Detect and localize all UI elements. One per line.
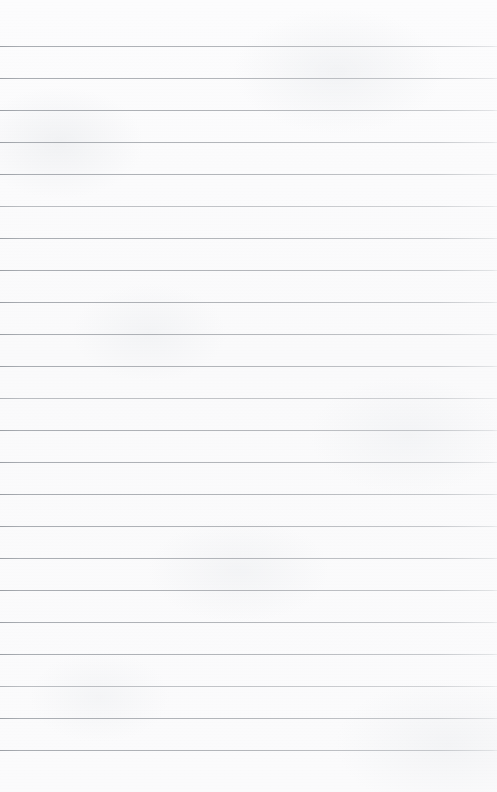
bottom-margin xyxy=(0,750,497,792)
ruled-line xyxy=(0,174,497,175)
ruled-line xyxy=(0,622,497,623)
ruled-line xyxy=(0,686,497,687)
ruled-line xyxy=(0,270,497,271)
ruled-line xyxy=(0,718,497,719)
ruled-line xyxy=(0,238,497,239)
ruled-line xyxy=(0,46,497,47)
ruled-line xyxy=(0,590,497,591)
lined-paper-page xyxy=(0,0,497,792)
ruled-line xyxy=(0,526,497,527)
ruled-line xyxy=(0,142,497,143)
ruled-line xyxy=(0,78,497,79)
ruled-line xyxy=(0,334,497,335)
ruled-line xyxy=(0,206,497,207)
ruled-lines-group xyxy=(0,0,497,792)
ruled-line xyxy=(0,398,497,399)
ruled-line xyxy=(0,654,497,655)
ruled-line xyxy=(0,494,497,495)
ruled-line xyxy=(0,462,497,463)
ruled-line xyxy=(0,558,497,559)
ruled-line xyxy=(0,110,497,111)
ruled-line xyxy=(0,430,497,431)
ruled-line xyxy=(0,366,497,367)
ruled-line xyxy=(0,302,497,303)
